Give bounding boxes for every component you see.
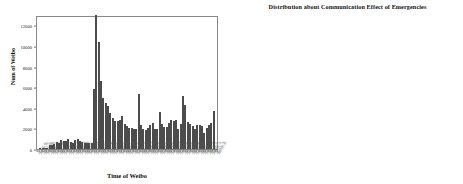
y-tick-label: 0: [6, 148, 32, 153]
y-tick-label: 4000: [6, 106, 32, 111]
y-tick-mark: [34, 88, 36, 89]
left-chart-panel: Num of Weibo 020004000600080001000012000…: [0, 0, 232, 184]
figure-container: Num of Weibo 020004000600080001000012000…: [0, 0, 463, 184]
y-tick-label: 2000: [6, 127, 32, 132]
y-tick-label: 10000: [6, 44, 32, 49]
left-plot-area: [36, 16, 218, 150]
y-tick-mark: [34, 47, 36, 48]
y-tick-mark: [34, 26, 36, 27]
right-chart-panel: Distribution about Communication Effect …: [232, 0, 463, 184]
right-chart-title: Distribution about Communication Effect …: [232, 3, 463, 10]
y-tick-mark: [34, 150, 36, 151]
y-tick-mark: [34, 129, 36, 130]
y-tick-label: 8000: [6, 65, 32, 70]
y-tick-label: 6000: [6, 86, 32, 91]
left-x-axis-label: Time of Weibo: [36, 172, 218, 179]
y-tick-mark: [34, 67, 36, 68]
y-tick-mark: [34, 108, 36, 109]
left-bar-series: [37, 17, 217, 149]
y-tick-label: 12000: [6, 24, 32, 29]
